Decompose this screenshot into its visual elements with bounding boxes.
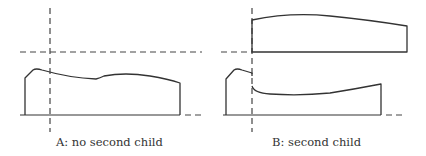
panel-a-caption: A: no second child (56, 135, 163, 149)
panel-b-caption: B: second child (272, 135, 361, 149)
diagram-canvas (0, 0, 426, 156)
panel-a (20, 8, 202, 132)
panel-b-child-shape-right (252, 84, 381, 115)
panel-b (221, 8, 407, 132)
panel-b-child-shape-left (226, 69, 252, 115)
panel-a-child-shape (25, 69, 180, 115)
panel-b-second-child-shape (252, 15, 407, 52)
